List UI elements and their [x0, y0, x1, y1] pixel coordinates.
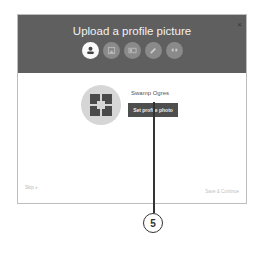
close-icon[interactable]: × [237, 20, 242, 29]
callout-badge: 5 [143, 213, 163, 233]
avatar [81, 85, 121, 125]
step-profile-picture[interactable] [82, 42, 99, 59]
step-edit[interactable] [145, 42, 162, 59]
save-continue-button[interactable]: Save & Continue [205, 189, 239, 194]
upload-profile-picture-dialog: Upload a profile picture × [17, 14, 247, 204]
step-indicators [18, 42, 246, 59]
step-cover-photo[interactable] [103, 42, 120, 59]
dialog-title: Upload a profile picture [18, 25, 246, 37]
profile-picture-icon [86, 46, 95, 55]
pencil-icon [149, 46, 158, 55]
dialog-header: Upload a profile picture × [18, 15, 246, 73]
profile-card-icon [128, 46, 137, 55]
skip-link[interactable]: Skip » [25, 185, 38, 190]
cover-photo-icon [107, 46, 116, 55]
step-quote[interactable] [166, 42, 183, 59]
callout-line [153, 102, 155, 213]
step-profile-card[interactable] [124, 42, 141, 59]
user-name: Swamp Ogres [131, 90, 169, 96]
quote-icon [170, 46, 179, 55]
avatar-image-icon [81, 85, 121, 125]
